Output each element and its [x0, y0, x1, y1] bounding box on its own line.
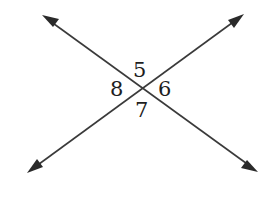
angle-label-bottom: 7 — [135, 98, 148, 122]
angle-label-left: 8 — [110, 77, 123, 101]
arrowhead-upper-right-icon — [228, 14, 244, 28]
angle-label-right: 6 — [158, 77, 171, 101]
angle-label-top: 5 — [133, 58, 146, 82]
line-b — [27, 14, 244, 173]
arrowhead-lower-left-icon — [27, 159, 43, 173]
line-a — [42, 15, 258, 172]
intersecting-lines-diagram: 5 6 7 8 — [0, 0, 275, 198]
